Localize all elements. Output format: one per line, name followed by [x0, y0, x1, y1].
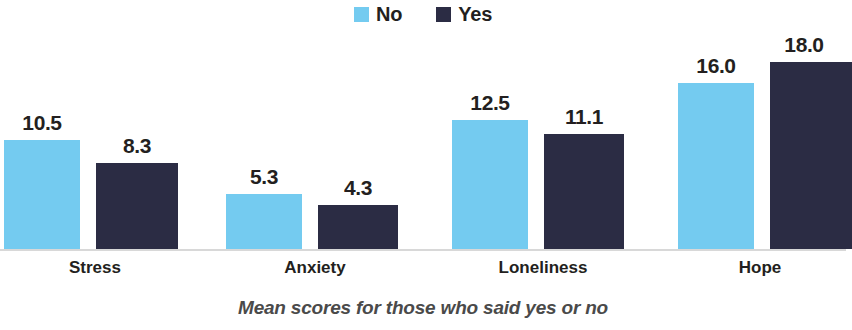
bar-value-hope-no: 16.0: [678, 55, 754, 76]
bar-value-anxiety-no: 5.3: [226, 166, 302, 187]
axis-baseline: [0, 249, 846, 251]
bar-loneliness-yes[interactable]: [544, 134, 624, 249]
bar-value-loneliness-yes: 11.1: [544, 106, 624, 127]
category-label-stress: Stress: [20, 258, 170, 278]
bar-stress-yes[interactable]: [96, 163, 178, 249]
bar-value-hope-yes: 18.0: [762, 34, 846, 55]
bar-hope-no[interactable]: [678, 83, 754, 249]
bar-value-anxiety-yes: 4.3: [318, 177, 398, 198]
bar-loneliness-no[interactable]: [452, 120, 528, 249]
bar-value-stress-yes: 8.3: [96, 135, 178, 156]
bar-value-stress-no: 10.5: [4, 112, 80, 133]
category-label-hope: Hope: [700, 258, 820, 278]
category-label-loneliness: Loneliness: [463, 258, 623, 278]
bar-value-loneliness-no: 12.5: [452, 92, 528, 113]
bar-stress-no[interactable]: [4, 140, 80, 249]
bar-anxiety-yes[interactable]: [318, 205, 398, 249]
category-label-anxiety: Anxiety: [240, 258, 390, 278]
bar-hope-yes[interactable]: [770, 62, 852, 249]
chart-caption: Mean scores for those who said yes or no: [0, 298, 846, 317]
bar-anxiety-no[interactable]: [226, 194, 302, 249]
